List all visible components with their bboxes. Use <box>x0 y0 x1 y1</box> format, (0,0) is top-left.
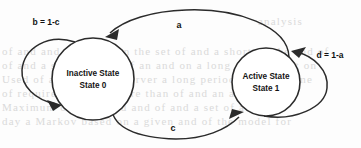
state-active-circle[interactable] <box>232 48 300 116</box>
state-inactive-name: Inactive State <box>67 69 120 78</box>
state-inactive-sublabel: State 0 <box>80 81 107 90</box>
state-active-sublabel: State 1 <box>253 84 280 93</box>
state-diagram-container: analysis of and and a lot and on the set… <box>0 0 361 148</box>
state-diagram-svg: a c b = 1-c d = 1-a Inactive State State… <box>0 0 361 148</box>
transition-c-label: c <box>170 123 175 133</box>
transition-a-label: a <box>176 20 182 30</box>
transition-d-label: d = 1-a <box>316 50 343 60</box>
transition-d-arrowhead <box>291 47 306 58</box>
state-node-inactive[interactable]: Inactive State State 0 <box>52 38 134 120</box>
state-node-active[interactable]: Active State State 1 <box>232 48 300 116</box>
transition-b-label: b = 1-c <box>32 17 59 27</box>
state-active-name: Active State <box>243 72 290 81</box>
transition-c: c <box>112 109 244 139</box>
transition-c-arrowhead <box>229 109 244 119</box>
state-inactive-circle[interactable] <box>52 38 134 120</box>
